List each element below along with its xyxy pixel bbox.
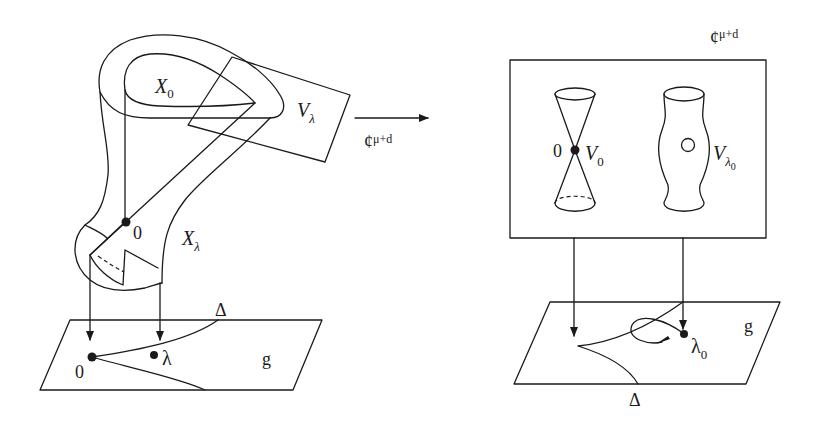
label-v0: V0 [585,142,604,169]
label-lambda0: λ0 [691,335,707,362]
label-cone-origin: 0 [553,141,562,161]
tube-outer-left [75,35,284,291]
label-x-lambda: Xλ [181,227,200,254]
origin-point-base [88,353,97,362]
origin-point-fiber [122,218,131,227]
label-lambda: λ [162,347,172,369]
label-v-lambda0: Vλ0 [713,142,736,172]
base-plane-right [514,302,780,384]
label-g-left: g [262,349,271,369]
bottom-cup [85,222,158,285]
arrow-label: ¢μ+d [364,132,392,152]
smooth-fiber-v-lambda0 [659,87,710,211]
label-delta-left: Δ [215,300,227,320]
x0-loop [124,54,255,107]
label-delta-right: Δ [629,390,641,410]
label-origin-fiber: 0 [133,223,142,243]
v-lambda-plane [188,57,350,162]
ambient-space-box [510,60,766,238]
label-g-right: g [744,316,753,336]
diagram-canvas: X0 Vλ Xλ 0 Δ 0 λ g ¢μ+d ¢μ+d 0 V0 [0,0,818,429]
left-figure: X0 Vλ Xλ 0 Δ 0 λ g [40,35,350,390]
label-x0: X0 [154,75,174,101]
loop-arrowhead [656,336,670,344]
lambda-point [150,351,158,359]
label-v-lambda: Vλ [297,99,315,126]
fiber-hole [682,139,695,152]
discriminant-curve-right [578,302,683,384]
space-label: ¢μ+d [710,27,738,48]
embedding-arrow: ¢μ+d [355,118,428,152]
loop-around-discriminant [631,318,683,342]
lambda0-point [680,330,688,338]
cone-vertex [571,146,580,155]
right-figure: ¢μ+d 0 V0 Vλ0 [510,27,780,410]
label-origin-base: 0 [75,362,84,382]
